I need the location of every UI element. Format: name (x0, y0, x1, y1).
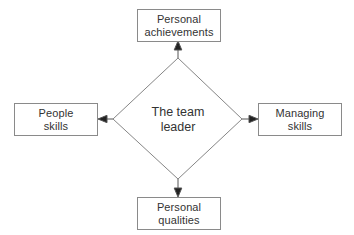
node-managing-skills-label: Managing skills (275, 107, 324, 133)
node-people-skills-label: People skills (39, 107, 74, 133)
node-personal-qualities[interactable]: Personal qualities (137, 197, 221, 230)
arrow-to-bottom (174, 179, 182, 197)
diagram-canvas: The team leader Personal achievements Pe… (0, 0, 354, 235)
arrow-to-top (174, 41, 182, 58)
node-personal-achievements-label: Personal achievements (144, 13, 213, 39)
diamond-shape (113, 58, 242, 179)
node-managing-skills[interactable]: Managing skills (258, 103, 342, 136)
node-personal-achievements[interactable]: Personal achievements (137, 9, 221, 42)
arrow-to-right (242, 115, 258, 122)
arrow-to-left (98, 115, 113, 122)
node-personal-qualities-label: Personal qualities (157, 201, 201, 227)
node-people-skills[interactable]: People skills (14, 103, 98, 136)
